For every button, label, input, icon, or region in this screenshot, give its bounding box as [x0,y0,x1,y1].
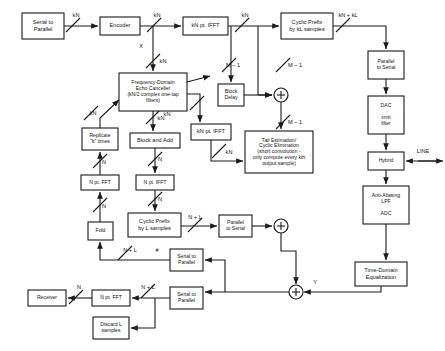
block-tail-estimation[interactable]: Tail Estimation/Cyclic Elimination(short… [245,131,313,173]
block-label: by kL samples [289,26,325,32]
signal-label-label-n-rx: N [77,284,81,290]
signal-label-label-x: X [139,43,143,49]
block-label: Encoder [110,22,131,28]
block-label: "k" times [90,138,110,144]
block-anti-aliasing-adc[interactable]: Anti-AliasingLPFADC [363,186,409,224]
block-hybrid[interactable]: Hybrid [368,152,404,170]
block-frequency-domain-echo-canceller[interactable]: Frequency-DomainEcho Canceller(kN/2 comp… [119,73,187,111]
signal-label-label-kn-3: kN [242,12,249,18]
block-label: N pt. FFT [100,294,122,300]
block-label: Serial to [33,19,54,25]
signal-label-label-n-fft-left: N [102,159,106,165]
block-label: Equalization [366,274,396,280]
signal-label-label-n-ba: N [158,156,162,162]
block-label: Block and Add [137,137,173,143]
block-cyclic-prefix-kl[interactable]: Cyclic Prefixby kL samples [281,13,333,39]
summing-junction-summer-mid [274,219,288,233]
signal-label-label-m-1-c: M – 1 [288,119,302,125]
wire-replicate-ec [100,100,119,128]
signal-label-label-kn-repl: kN [90,110,97,116]
signal-label-label-kn-2: kN [154,12,161,18]
block-label: Parallel [178,297,195,303]
wire-branch-stp-upper [205,260,225,292]
block-time-domain-equalization[interactable]: Time-DomainEqualization [355,262,407,286]
block-parallel-to-serial-tx[interactable]: Parallelto Serial [368,51,404,79]
signal-label-label-y: Y [313,279,317,285]
block-label: Cyclic Prefix [292,19,323,25]
wire-ec-knifft [187,94,200,122]
signal-label-label-kn-1: kN [73,12,80,18]
block-label: Time-Domain [364,267,397,273]
signal-label-label-n-ifft: N [158,196,162,202]
signal-label-label-line: LINE [417,148,430,154]
block-label: LPF [381,198,390,204]
wire-cp-ps [333,26,386,49]
signal-label-label-m-1-b: M – 1 [288,62,302,68]
block-dac-xmit-filter[interactable]: DACxmitfilter [368,96,404,134]
block-n-pt-fft-rx[interactable]: N pt. FFT [92,290,130,306]
block-label: samples [102,327,121,333]
signal-label-label-kn-kl: kN + kL [338,12,357,18]
signal-label-label-kn-x: kN [160,58,167,64]
block-label: kN pt. IFFT [192,22,221,28]
block-label: ADC [381,210,392,216]
block-label: Fold [96,227,106,233]
block-replicate-k-times[interactable]: Replicate"k" times [82,128,118,150]
block-label: Hybrid [379,157,394,163]
block-label: N pt. FFT [89,179,111,185]
block-label: output sample) [262,160,296,166]
signal-label-label-n-l-3: N + L [141,284,155,290]
block-n-pt-fft-left[interactable]: N pt. FFT [81,175,119,190]
block-label: by L samples [138,225,171,231]
wire-ec-up-right [187,76,210,82]
block-label: filter [381,120,391,126]
block-label: N pt. IFFT [144,179,167,185]
signal-label-label-n-l-1: N + L [188,214,202,220]
signal-label-label-m-1-a: M – 1 [226,62,240,68]
block-label: Parallel [178,259,195,265]
block-cyclic-prefix-l[interactable]: Cyclic Prefixby L samples [128,213,181,237]
wire-branch-discard [131,298,155,328]
block-encoder[interactable]: Encoder [100,17,140,35]
summing-junction-summer-rx [289,285,303,299]
block-serial-to-parallel-tx[interactable]: Serial toParallel [22,13,64,39]
block-label: kN pt. IFFT [197,128,226,134]
block-serial-to-parallel-lower[interactable]: Serial toParallel [170,287,203,309]
block-label: filters) [146,97,160,103]
block-serial-to-parallel-upper[interactable]: Serial toParallel [170,249,203,271]
block-discard-l-samples[interactable]: Discard Lsamples [93,317,129,339]
wire-tdeq-summer [304,286,381,292]
block-label: Cyclic Prefix [139,218,170,224]
block-label: DAC [381,102,392,108]
block-block-delay[interactable]: BlockDelay [218,84,244,106]
block-label: Parallel [34,26,53,32]
block-kn-pt-ifft-top[interactable]: kN pt. IFFT [183,17,228,35]
block-n-pt-ifft-mid[interactable]: N pt. IFFT [136,175,174,190]
block-block-and-add[interactable]: Block and Add [130,133,180,148]
block-fold[interactable]: Fold [88,222,113,240]
signal-label-label-kn-tail: kN [226,149,233,155]
signal-label-label-n-fold: N [102,203,106,209]
summing-junction-summer-tx [274,88,288,102]
wire-summer-mid-rx [281,233,296,284]
block-kn-pt-ifft-mid[interactable]: kN pt. IFFT [191,124,231,140]
block-parallel-to-serial-rx[interactable]: Parallelto Serial [219,215,252,237]
signal-label-label-kn-ec-out: kN [164,111,171,117]
block-diagram-canvas: Serial toParallelEncoderkN pt. IFFTCycli… [0,0,445,351]
block-label: to Serial [226,225,245,231]
signal-label-label-kn-ba: kN [158,115,165,121]
block-label: Receiver [37,294,57,300]
block-label: Delay [224,94,237,100]
signal-label-label-hash: # [155,247,159,253]
block-label: to Serial [377,64,396,70]
block-receiver[interactable]: Receiver [28,290,66,306]
block-diagram-svg: Serial toParallelEncoderkN pt. IFFTCycli… [0,0,445,351]
signal-label-label-n-l-2: N + L [123,247,137,253]
